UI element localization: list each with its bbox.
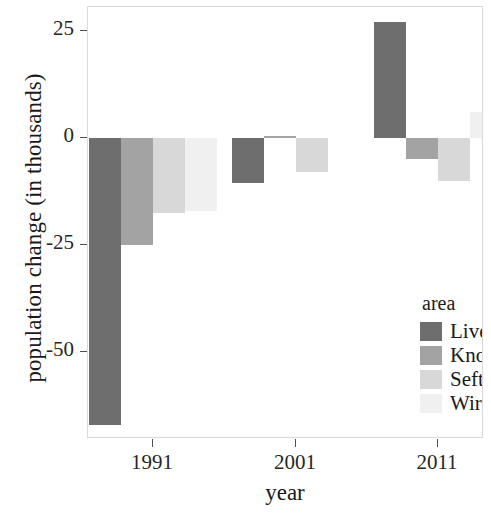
bar-sefton-2011 bbox=[438, 138, 470, 181]
x-axis-tick-mark bbox=[295, 439, 296, 447]
bar-liverpool-2001 bbox=[232, 138, 264, 183]
y-axis-tick-mark bbox=[80, 30, 87, 31]
bar-liverpool-2011 bbox=[374, 22, 406, 138]
legend-swatch-knowsley bbox=[420, 346, 442, 365]
bar-knowsley-2011 bbox=[406, 138, 438, 159]
x-axis-tick-mark bbox=[437, 439, 438, 447]
y-axis-title: population change (in thousands) bbox=[21, 8, 47, 448]
y-axis-tick-label: 25 bbox=[24, 16, 74, 41]
legend-swatch-sefton bbox=[420, 370, 442, 389]
legend-swatch-liverpool bbox=[420, 322, 442, 341]
bar-sefton-2001 bbox=[296, 138, 328, 172]
legend-title: area bbox=[420, 292, 483, 315]
plot-panel: area LiverpoolKnowsleySeftonWirral bbox=[87, 6, 483, 438]
legend-label: Wirral bbox=[450, 393, 483, 414]
y-axis-tick-mark bbox=[80, 244, 87, 245]
bar-liverpool-1991 bbox=[89, 138, 121, 425]
legend-swatch-wirral bbox=[420, 394, 442, 413]
bar-wirral-1991 bbox=[185, 138, 217, 211]
chart-figure: population change (in thousands) 250-25-… bbox=[0, 0, 491, 517]
bar-wirral-2011 bbox=[470, 112, 483, 138]
y-axis-tick-mark bbox=[80, 351, 87, 352]
legend-entry-liverpool: Liverpool bbox=[420, 319, 483, 343]
bar-knowsley-1991 bbox=[121, 138, 153, 245]
x-axis-tick-label: 1991 bbox=[112, 450, 192, 475]
bar-knowsley-2001 bbox=[264, 136, 296, 138]
y-axis-tick-label: 0 bbox=[24, 123, 74, 148]
legend-label: Sefton bbox=[450, 369, 483, 390]
legend-entry-wirral: Wirral bbox=[420, 391, 483, 415]
legend-label: Knowsley bbox=[450, 345, 483, 366]
x-axis-tick-mark bbox=[152, 439, 153, 447]
legend-entry-knowsley: Knowsley bbox=[420, 343, 483, 367]
x-axis-tick-label: 2011 bbox=[397, 450, 477, 475]
y-axis-tick-label: -50 bbox=[24, 337, 74, 362]
x-axis-tick-label: 2001 bbox=[255, 450, 335, 475]
legend-entries: LiverpoolKnowsleySeftonWirral bbox=[420, 319, 483, 415]
legend-label: Liverpool bbox=[450, 321, 483, 342]
y-axis-tick-label: -25 bbox=[24, 230, 74, 255]
y-axis-tick-mark bbox=[80, 137, 87, 138]
bar-sefton-1991 bbox=[153, 138, 185, 213]
legend-entry-sefton: Sefton bbox=[420, 367, 483, 391]
chart-legend: area LiverpoolKnowsleySeftonWirral bbox=[420, 292, 483, 415]
x-axis-title: year bbox=[87, 480, 483, 506]
